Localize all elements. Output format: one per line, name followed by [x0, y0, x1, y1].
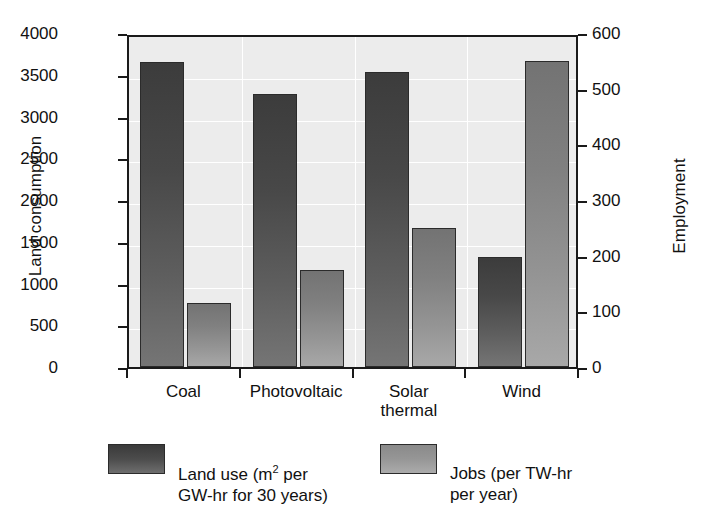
y-tick-label-left: 1000	[20, 276, 58, 293]
y-tick-label-left: 1500	[20, 234, 58, 251]
gridline	[129, 204, 576, 205]
y-tick-right	[578, 145, 587, 147]
y-tick-left	[118, 159, 127, 161]
x-tick	[577, 369, 579, 378]
y-tick-right	[578, 312, 587, 314]
y-tick-label-right: 0	[592, 359, 601, 376]
x-axis-category-label: Coal	[127, 382, 240, 401]
legend: Land use (m2 per GW-hr for 30 years) Job…	[108, 442, 628, 502]
x-tick	[239, 369, 241, 378]
y-tick-left	[118, 243, 127, 245]
y-tick-label-left: 0	[49, 359, 58, 376]
gridline-vertical	[467, 37, 468, 367]
y-tick-left	[118, 118, 127, 120]
y-tick-label-right: 200	[592, 248, 620, 265]
y-tick-label-right: 300	[592, 192, 620, 209]
y-tick-right	[578, 201, 587, 203]
y-tick-label-left: 2000	[20, 192, 58, 209]
bar-land-use	[365, 72, 409, 367]
y-tick-right	[578, 90, 587, 92]
bar-jobs	[412, 228, 456, 367]
legend-item-jobs: Jobs (per TW-hr per year)	[380, 442, 572, 505]
x-tick	[352, 369, 354, 378]
x-tick	[126, 369, 128, 378]
legend-label-land-use: Land use (m2 per GW-hr for 30 years)	[178, 442, 328, 506]
legend-label-jobs: Jobs (per TW-hr per year)	[450, 442, 572, 505]
bar-jobs	[300, 270, 344, 367]
y-tick-left	[118, 34, 127, 36]
y-tick-label-right: 400	[592, 136, 620, 153]
y-tick-right	[578, 34, 587, 36]
y-tick-label-left: 2500	[20, 150, 58, 167]
y-tick-label-left: 500	[30, 317, 58, 334]
y-axis-right-title: Employment	[670, 86, 690, 326]
y-tick-label-left: 3500	[20, 67, 58, 84]
y-tick-left	[118, 201, 127, 203]
gridline-vertical	[242, 37, 243, 367]
y-tick-label-right: 100	[592, 303, 620, 320]
legend-item-land-use: Land use (m2 per GW-hr for 30 years)	[108, 442, 328, 506]
gridline	[129, 79, 576, 80]
bar-land-use	[253, 94, 297, 367]
x-axis-category-label: Solar thermal	[353, 382, 466, 420]
bar-land-use	[140, 62, 184, 367]
gridline	[129, 162, 576, 163]
y-tick-right	[578, 368, 587, 370]
x-tick	[464, 369, 466, 378]
bar-jobs	[525, 61, 569, 367]
y-tick-label-right: 500	[592, 81, 620, 98]
y-tick-label-left: 4000	[20, 25, 58, 42]
gridline	[129, 246, 576, 247]
y-tick-left	[118, 326, 127, 328]
y-tick-label-right: 600	[592, 25, 620, 42]
bar-jobs	[187, 303, 231, 367]
x-axis-category-label: Photovoltaic	[240, 382, 353, 401]
gridline	[129, 121, 576, 122]
y-tick-right	[578, 257, 587, 259]
y-tick-left	[118, 285, 127, 287]
bar-land-use	[478, 257, 522, 367]
legend-swatch-jobs	[380, 444, 437, 474]
legend-swatch-land-use	[108, 444, 165, 474]
gridline-vertical	[355, 37, 356, 367]
x-axis-category-label: Wind	[465, 382, 578, 401]
dual-axis-bar-chart: Land consumption Employment 050010001500…	[0, 0, 709, 515]
y-tick-label-left: 3000	[20, 109, 58, 126]
y-tick-left	[118, 76, 127, 78]
plot-area	[127, 35, 578, 369]
